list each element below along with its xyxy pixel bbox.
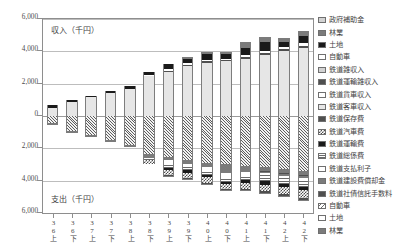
bar-segment[interactable] (220, 116, 232, 164)
bar-group[interactable] (259, 19, 271, 213)
bar-segment[interactable] (182, 59, 194, 64)
legend-item[interactable]: 鉄道運輸雑収入 (318, 76, 419, 88)
bar-segment[interactable] (182, 57, 194, 59)
bar-segment[interactable] (163, 64, 175, 69)
bar-segment[interactable] (182, 116, 194, 160)
bar-segment[interactable] (105, 140, 117, 142)
bar-segment[interactable] (240, 42, 252, 48)
bar-segment[interactable] (201, 54, 213, 59)
legend-item[interactable]: 鉄道社債信託手数料 (318, 187, 419, 199)
bar-segment[interactable] (259, 116, 271, 167)
legend-item[interactable]: 政府補助金 (318, 14, 419, 26)
bar-segment[interactable] (220, 54, 232, 58)
bar-segment[interactable] (47, 105, 59, 107)
bar-segment[interactable] (259, 42, 271, 50)
bar-segment[interactable] (240, 116, 252, 166)
bar-segment[interactable] (201, 63, 213, 116)
bar-segment[interactable] (298, 36, 310, 43)
bar-group[interactable] (220, 19, 232, 213)
bar-group[interactable] (240, 19, 252, 213)
legend-item[interactable]: 自動車 (318, 200, 419, 212)
bar-segment[interactable] (220, 189, 232, 191)
bar-segment[interactable] (124, 145, 136, 147)
bar-segment[interactable] (182, 63, 194, 64)
bar-segment[interactable] (220, 164, 232, 172)
bar-segment[interactable] (66, 100, 78, 102)
bar-group[interactable] (143, 19, 155, 213)
bar-group[interactable] (66, 19, 78, 213)
legend-item[interactable]: 鉄道総係費 (318, 150, 419, 162)
bar-segment[interactable] (85, 97, 97, 116)
bar-group[interactable] (163, 19, 175, 213)
bar-segment[interactable] (240, 55, 252, 57)
bar-segment[interactable] (278, 187, 290, 194)
bar-segment[interactable] (85, 96, 97, 98)
bar-group[interactable] (124, 19, 136, 213)
bar-group[interactable] (105, 19, 117, 213)
bar-segment[interactable] (143, 76, 155, 116)
bar-segment[interactable] (143, 160, 155, 163)
bar-segment[interactable] (47, 123, 59, 125)
bar-segment[interactable] (143, 75, 155, 76)
bar-segment[interactable] (259, 55, 271, 116)
bar-segment[interactable] (278, 116, 290, 169)
bar-segment[interactable] (240, 57, 252, 59)
legend-item[interactable]: 鉄道保存費 (318, 113, 419, 125)
bar-segment[interactable] (105, 93, 117, 116)
bar-group[interactable] (278, 19, 290, 213)
bar-segment[interactable] (201, 116, 213, 163)
bar-segment[interactable] (220, 60, 232, 61)
bar-segment[interactable] (105, 116, 117, 140)
bar-segment[interactable] (259, 37, 271, 42)
bar-segment[interactable] (143, 72, 155, 75)
bar-group[interactable] (182, 19, 194, 213)
bar-segment[interactable] (298, 46, 310, 48)
bar-segment[interactable] (201, 61, 213, 62)
legend-item[interactable]: 土地 (318, 212, 419, 224)
bar-segment[interactable] (259, 51, 271, 53)
bar-segment[interactable] (124, 86, 136, 89)
bar-segment[interactable] (278, 49, 290, 51)
bar-segment[interactable] (163, 71, 175, 72)
legend-item[interactable]: 土地 (318, 39, 419, 51)
legend-item[interactable]: 鉄道支払利子 (318, 163, 419, 175)
bar-segment[interactable] (298, 116, 310, 171)
bar-segment[interactable] (163, 116, 175, 157)
bar-group[interactable] (201, 19, 213, 213)
bar-segment[interactable] (47, 116, 59, 123)
bar-segment[interactable] (220, 61, 232, 116)
legend-item[interactable]: 鉄道建設費償却金 (318, 175, 419, 187)
bar-segment[interactable] (259, 53, 271, 55)
legend-item[interactable]: 林業 (318, 225, 419, 237)
bar-segment[interactable] (259, 191, 271, 194)
bar-group[interactable] (298, 19, 310, 213)
bar-segment[interactable] (105, 91, 117, 93)
bar-segment[interactable] (201, 60, 213, 61)
bar-segment[interactable] (163, 72, 175, 116)
bar-segment[interactable] (298, 48, 310, 116)
bar-segment[interactable] (201, 183, 213, 185)
legend-item[interactable]: 鉄道運輸費 (318, 138, 419, 150)
bar-segment[interactable] (298, 43, 310, 45)
bar-segment[interactable] (278, 47, 290, 49)
bar-segment[interactable] (182, 66, 194, 116)
bar-group[interactable] (47, 19, 59, 213)
bar-segment[interactable] (298, 31, 310, 36)
bar-segment[interactable] (85, 116, 97, 135)
bar-segment[interactable] (66, 116, 78, 131)
bar-segment[interactable] (220, 59, 232, 60)
bar-segment[interactable] (143, 116, 155, 154)
bar-segment[interactable] (124, 116, 136, 145)
legend-item[interactable]: 鉄道貨車収入 (318, 88, 419, 100)
bar-segment[interactable] (182, 65, 194, 66)
bar-segment[interactable] (259, 185, 271, 192)
bar-segment[interactable] (278, 194, 290, 197)
bar-segment[interactable] (240, 59, 252, 116)
bar-segment[interactable] (66, 102, 78, 116)
bar-segment[interactable] (240, 189, 252, 191)
bar-segment[interactable] (278, 38, 290, 42)
legend-item[interactable]: 林業 (318, 26, 419, 38)
legend-item[interactable]: 鉄道雑収入 (318, 64, 419, 76)
bar-segment[interactable] (124, 89, 136, 116)
bar-segment[interactable] (85, 135, 97, 137)
